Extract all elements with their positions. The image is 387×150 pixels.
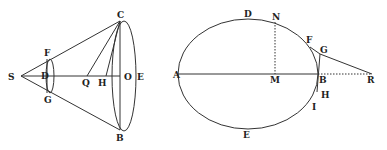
- label-A: A: [172, 70, 181, 80]
- label-I: I: [312, 102, 316, 112]
- label-F: F: [44, 48, 51, 58]
- label-O: O: [124, 72, 132, 82]
- label-B: B: [116, 133, 124, 143]
- line-CQ: [87, 21, 120, 76]
- label-C: C: [117, 10, 124, 20]
- label-E: E: [243, 130, 250, 140]
- cone-upper-edge: [21, 21, 120, 76]
- label-H: H: [321, 90, 330, 100]
- line-CH: [106, 21, 120, 76]
- label-G: G: [320, 45, 328, 55]
- line-GR: [320, 54, 372, 74]
- label-H: H: [98, 78, 107, 88]
- label-N: N: [272, 12, 280, 22]
- label-M: M: [270, 75, 280, 85]
- label-Q: Q: [82, 78, 90, 88]
- label-R: R: [367, 75, 375, 85]
- cone-figure: S F D G C Q H O E B: [8, 10, 144, 143]
- diagram-canvas: S F D G C Q H O E B A D N M F G B R H I …: [0, 0, 387, 150]
- ellipse-figure: A D N M F G B R H I E: [172, 9, 375, 140]
- label-G: G: [44, 95, 52, 105]
- label-D: D: [41, 71, 49, 81]
- label-F: F: [306, 35, 313, 45]
- label-D: D: [244, 9, 252, 19]
- line-GH: [317, 54, 320, 92]
- label-B: B: [319, 75, 327, 85]
- label-E: E: [137, 72, 144, 82]
- label-S: S: [8, 72, 15, 82]
